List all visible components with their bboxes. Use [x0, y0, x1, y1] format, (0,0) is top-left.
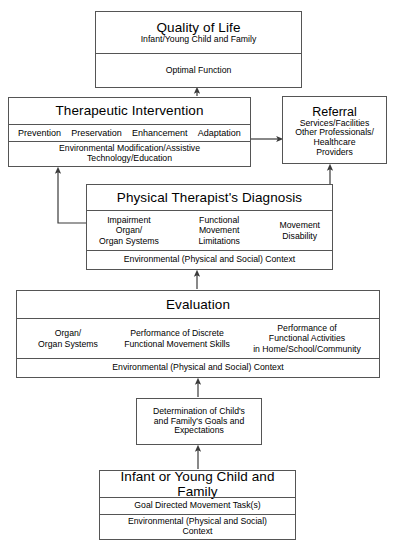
box-therapeutic-intervention: Therapeutic Intervention Prevention Pres…	[8, 97, 251, 167]
approach-preservation: Preservation	[71, 128, 122, 138]
box-infant-or-young-child-and-family: Infant or Young Child and Family Goal Di…	[99, 470, 296, 540]
diagnosis-title: Physical Therapist's Diagnosis	[117, 190, 302, 205]
infant-task: Goal Directed Movement Task(s)	[100, 497, 295, 514]
infant-task-label: Goal Directed Movement Task(s)	[134, 501, 260, 511]
evaluation-column-functional-activities: Performance of Functional Activities in …	[243, 323, 371, 353]
diagnosis-columns: Impairment Organ/ Organ Systems Function…	[87, 210, 332, 250]
evaluation-header: Evaluation	[17, 291, 379, 318]
evaluation-title: Evaluation	[166, 297, 230, 312]
flowchart-canvas: Quality of Life Infant/Young Child and F…	[0, 0, 394, 550]
approach-prevention: Prevention	[18, 128, 61, 138]
diagnosis-context-label: Environmental (Physical and Social) Cont…	[124, 255, 295, 265]
infant-header: Infant or Young Child and Family	[100, 471, 295, 497]
diagnosis-col3-line1: Movement	[279, 220, 320, 230]
diagnosis-col2-line3: Limitations	[198, 236, 240, 246]
evaluation-col3-line2: Functional Activities	[243, 333, 371, 343]
diagnosis-col3-line2: Disability	[279, 231, 320, 241]
quality-of-life-outcome: Optimal Function	[96, 53, 301, 87]
evaluation-columns: Organ/ Organ Systems Performance of Disc…	[17, 318, 379, 358]
evaluation-col1-line1: Organ/	[25, 328, 111, 338]
diagnosis-col2-line1: Functional	[198, 215, 240, 225]
referral-title: Referral	[312, 105, 356, 119]
therapeutic-intervention-header: Therapeutic Intervention	[9, 98, 250, 124]
determination-line-3: Expectations	[174, 426, 224, 436]
evaluation-col2-line1: Performance of Discrete	[112, 328, 242, 338]
diagnosis-header: Physical Therapist's Diagnosis	[87, 185, 332, 210]
quality-of-life-outcome-label: Optimal Function	[166, 66, 232, 76]
box-evaluation: Evaluation Organ/ Organ Systems Performa…	[16, 290, 380, 378]
box-physical-therapists-diagnosis: Physical Therapist's Diagnosis Impairmen…	[86, 184, 333, 270]
evaluation-column-organ-systems: Organ/ Organ Systems	[25, 328, 111, 348]
quality-of-life-title: Quality of Life	[156, 20, 240, 35]
diagnosis-col1-line1: Impairment	[99, 215, 159, 225]
referral-content: Referral Services/Facilities Other Profe…	[283, 97, 386, 163]
evaluation-col3-line1: Performance of	[243, 323, 371, 333]
therapeutic-intervention-context: Environmental Modification/Assistive Tec…	[9, 141, 250, 166]
therapeutic-intervention-approaches: Prevention Preservation Enhancement Adap…	[9, 124, 250, 141]
evaluation-col2-line2: Functional Movement Skills	[112, 339, 242, 349]
infant-title: Infant or Young Child and Family	[100, 469, 295, 499]
quality-of-life-header: Quality of Life Infant/Young Child and F…	[96, 12, 301, 53]
evaluation-context-label: Environmental (Physical and Social) Cont…	[112, 363, 283, 373]
box-determination-of-goals: Determination of Child's and Family's Go…	[136, 398, 262, 445]
diagnosis-column-functional-movement-limitations: Functional Movement Limitations	[198, 215, 240, 245]
diagnosis-col2-line2: Movement	[198, 225, 240, 235]
referral-line-4: Providers	[316, 148, 353, 158]
quality-of-life-subtitle: Infant/Young Child and Family	[141, 35, 257, 45]
diagnosis-col1-line3: Organ Systems	[99, 236, 159, 246]
approach-enhancement: Enhancement	[132, 128, 188, 138]
evaluation-col3-line3: in Home/School/Community	[243, 344, 371, 354]
evaluation-context: Environmental (Physical and Social) Cont…	[17, 358, 379, 377]
determination-content: Determination of Child's and Family's Go…	[137, 399, 261, 444]
therapeutic-intervention-context-line2: Technology/Education	[87, 154, 172, 164]
box-referral: Referral Services/Facilities Other Profe…	[282, 96, 387, 164]
diagnosis-context: Environmental (Physical and Social) Cont…	[87, 250, 332, 269]
therapeutic-intervention-title: Therapeutic Intervention	[56, 103, 204, 118]
diagnosis-col1-line2: Organ/	[99, 225, 159, 235]
approach-adaptation: Adaptation	[198, 128, 241, 138]
infant-context-line2: Context	[183, 527, 213, 537]
infant-context: Environmental (Physical and Social) Cont…	[100, 514, 295, 539]
box-quality-of-life: Quality of Life Infant/Young Child and F…	[95, 11, 302, 88]
diagnosis-column-impairment: Impairment Organ/ Organ Systems	[99, 215, 159, 245]
evaluation-col1-line2: Organ Systems	[25, 339, 111, 349]
diagnosis-column-movement-disability: Movement Disability	[279, 220, 320, 240]
evaluation-column-discrete-movement-skills: Performance of Discrete Functional Movem…	[112, 328, 242, 348]
